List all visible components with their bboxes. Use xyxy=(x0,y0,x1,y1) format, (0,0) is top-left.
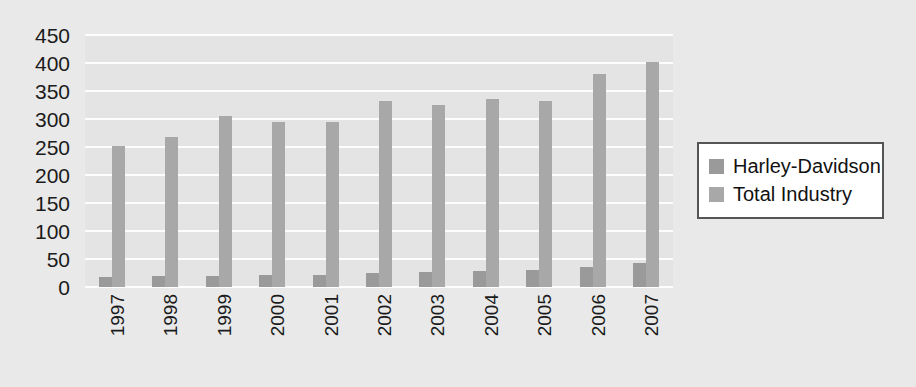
bar-group xyxy=(566,35,619,287)
x-axis-tick: 2003 xyxy=(406,292,459,372)
legend-item: Harley-Davidson xyxy=(709,152,872,180)
legend-swatch-icon xyxy=(709,187,724,202)
y-axis-tick-label: 450 xyxy=(35,25,70,46)
bar-harley-davidson-2007 xyxy=(633,263,646,287)
y-axis-tick-label: 0 xyxy=(58,277,70,298)
bar-harley-davidson-1998 xyxy=(152,276,165,287)
bar-group xyxy=(85,35,138,287)
bar-group xyxy=(245,35,298,287)
bar-total-industry-2000 xyxy=(272,122,285,287)
bar-total-industry-2007 xyxy=(646,62,659,287)
bar-harley-davidson-2000 xyxy=(259,275,272,287)
legend-swatch-icon xyxy=(709,159,724,174)
x-axis-tick: 1997 xyxy=(85,292,138,372)
x-axis-tick-label: 2006 xyxy=(589,294,608,336)
bar-harley-davidson-2005 xyxy=(526,270,539,287)
x-axis-tick: 1999 xyxy=(192,292,245,372)
x-axis-tick-label: 1999 xyxy=(215,294,234,336)
x-axis-tick-label: 1998 xyxy=(161,294,180,336)
bar-total-industry-2004 xyxy=(486,99,499,287)
bar-harley-davidson-1999 xyxy=(206,276,219,287)
bar-harley-davidson-2003 xyxy=(419,272,432,287)
plot-area xyxy=(85,35,673,287)
x-axis-tick: 2004 xyxy=(459,292,512,372)
x-axis-tick: 2002 xyxy=(352,292,405,372)
x-axis-tick-label: 2000 xyxy=(268,294,287,336)
y-axis-tick-label: 350 xyxy=(35,81,70,102)
bar-group xyxy=(620,35,673,287)
bar-group xyxy=(352,35,405,287)
x-axis-tick: 2007 xyxy=(620,292,673,372)
bar-total-industry-2002 xyxy=(379,101,392,287)
x-axis-tick: 2001 xyxy=(299,292,352,372)
bar-harley-davidson-1997 xyxy=(99,277,112,287)
x-axis-tick: 2006 xyxy=(566,292,619,372)
x-axis-tick: 2000 xyxy=(245,292,298,372)
bar-total-industry-2005 xyxy=(539,101,552,287)
bar-total-industry-2006 xyxy=(593,74,606,287)
y-axis-tick-label: 200 xyxy=(35,165,70,186)
x-axis-tick-label: 2003 xyxy=(428,294,447,336)
bar-harley-davidson-2002 xyxy=(366,273,379,287)
x-axis-tick-label: 2005 xyxy=(535,294,554,336)
y-axis-tick-label: 100 xyxy=(35,221,70,242)
bar-total-industry-1997 xyxy=(112,146,125,287)
bar-total-industry-2001 xyxy=(326,122,339,287)
x-axis-tick-label: 2002 xyxy=(375,294,394,336)
x-axis-tick: 1998 xyxy=(138,292,191,372)
bar-group xyxy=(406,35,459,287)
bar-group xyxy=(513,35,566,287)
bar-total-industry-2003 xyxy=(432,105,445,287)
bar-total-industry-1999 xyxy=(219,116,232,287)
y-axis-tick-label: 250 xyxy=(35,137,70,158)
bar-group xyxy=(299,35,352,287)
x-axis-tick-label: 2001 xyxy=(322,294,341,336)
x-axis-tick-label: 2007 xyxy=(642,294,661,336)
bar-group xyxy=(459,35,512,287)
x-axis: 1997199819992000200120022003200420052006… xyxy=(85,292,673,372)
y-axis-tick-label: 400 xyxy=(35,53,70,74)
bars-layer xyxy=(85,35,673,287)
y-axis-tick-label: 50 xyxy=(47,249,70,270)
bar-harley-davidson-2004 xyxy=(473,271,486,287)
chart-legend: Harley-DavidsonTotal Industry xyxy=(697,142,884,219)
legend-item: Total Industry xyxy=(709,180,872,208)
y-axis: 050100150200250300350400450 xyxy=(0,35,78,287)
bar-group xyxy=(192,35,245,287)
bar-total-industry-1998 xyxy=(165,137,178,287)
y-axis-tick-label: 150 xyxy=(35,193,70,214)
x-axis-tick-label: 2004 xyxy=(482,294,501,336)
bar-harley-davidson-2001 xyxy=(313,275,326,287)
bar-chart: 050100150200250300350400450 199719981999… xyxy=(0,0,916,387)
x-axis-tick-label: 1997 xyxy=(108,294,127,336)
bar-group xyxy=(138,35,191,287)
legend-item-label: Total Industry xyxy=(733,184,852,204)
y-axis-tick-label: 300 xyxy=(35,109,70,130)
bar-harley-davidson-2006 xyxy=(580,267,593,287)
legend-item-label: Harley-Davidson xyxy=(733,156,881,176)
x-axis-tick: 2005 xyxy=(513,292,566,372)
